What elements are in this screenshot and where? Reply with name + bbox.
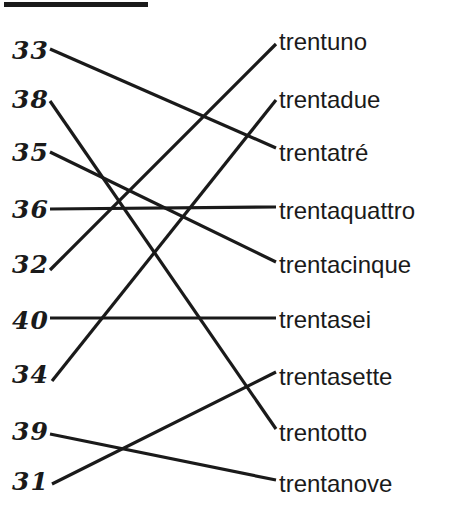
- word-item[interactable]: trentotto: [279, 421, 367, 445]
- numeral-item[interactable]: 35: [12, 140, 49, 165]
- word-item[interactable]: trentuno: [279, 30, 367, 54]
- connector-line[interactable]: [52, 372, 276, 484]
- numeral-item[interactable]: 40: [12, 308, 49, 333]
- word-item[interactable]: trentanove: [279, 472, 392, 496]
- numeral-item[interactable]: 33: [12, 38, 49, 63]
- numeral-item[interactable]: 38: [12, 87, 49, 112]
- connector-line[interactable]: [50, 207, 276, 209]
- word-item[interactable]: trentatré: [279, 141, 368, 165]
- word-item[interactable]: trentadue: [279, 88, 380, 112]
- worksheet-page: 333835363240343931 trentunotrentaduetren…: [0, 0, 454, 517]
- connector-line[interactable]: [50, 44, 276, 270]
- connector-line[interactable]: [52, 100, 276, 381]
- numeral-item[interactable]: 32: [12, 252, 49, 277]
- numeral-item[interactable]: 34: [12, 362, 49, 387]
- word-item[interactable]: trentasei: [279, 308, 371, 332]
- connector-line[interactable]: [50, 434, 276, 480]
- numeral-item[interactable]: 39: [12, 419, 49, 444]
- numeral-item[interactable]: 36: [12, 197, 49, 222]
- connector-line[interactable]: [50, 49, 276, 148]
- numeral-item[interactable]: 31: [12, 469, 49, 494]
- word-item[interactable]: trentasette: [279, 365, 392, 389]
- word-item[interactable]: trentacinque: [279, 253, 411, 277]
- word-item[interactable]: trentaquattro: [279, 199, 415, 223]
- connector-line[interactable]: [50, 101, 276, 429]
